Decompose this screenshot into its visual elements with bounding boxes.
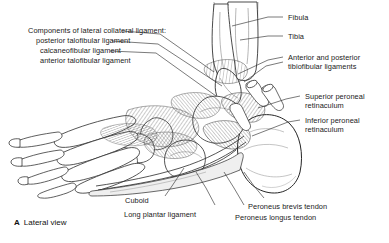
label-superior-peroneal-retinaculum-line1: Superior peroneal [305,92,365,101]
label-cuboid: Cuboid [125,196,149,205]
label-calcaneofibular-ligament: calcaneofibular ligament [40,46,121,55]
label-inferior-peroneal-retinaculum-line1: Inferior peroneal [305,116,360,125]
label-tibia: Tibia [288,32,304,41]
label-inferior-peroneal-retinaculum-line2: retinaculum [305,125,344,134]
label-peroneus-brevis-tendon: Peroneus brevis tendon [248,202,327,211]
figure-caption: ALateral view [14,218,66,227]
label-lateral-collateral-heading: Components of lateral collateral ligamen… [28,26,166,35]
leader-peroneus-longus [224,172,244,205]
label-tibiofibular-ligaments-line1: Anterior and posterior [288,53,360,62]
label-peroneus-longus-tendon: Peroneus longus tendon [235,213,316,222]
figure-caption-text: Lateral view [24,218,67,227]
label-fibula: Fibula [288,13,308,22]
label-tibiofibular-ligaments-line2: tibiofibular ligaments [288,62,356,71]
figure-marker: A [14,218,20,227]
leader-posterior-talofibular [122,31,214,72]
label-anterior-talofibular-ligament: anterior talofibular ligament [40,56,131,65]
tibiofibular-ligament-hatching [204,60,247,84]
anatomical-figure: Components of lateral collateral ligamen… [0,0,389,243]
label-posterior-talofibular-ligament: posterior talofibular ligament [36,36,130,45]
label-superior-peroneal-retinaculum-line2: retinaculum [305,101,344,110]
label-long-plantar-ligament: Long plantar ligament [124,210,196,219]
